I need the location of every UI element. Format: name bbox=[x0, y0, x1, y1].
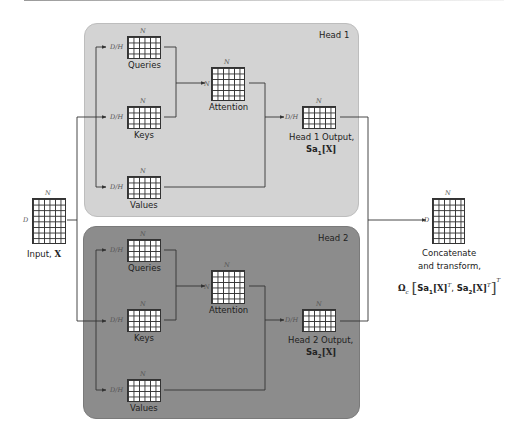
head-1-queries-cols-dim: N bbox=[140, 27, 146, 35]
head-2-values-label: Values bbox=[130, 403, 158, 413]
head-1-values-matrix bbox=[127, 176, 161, 199]
head-1-output-rows-dim: D/H bbox=[285, 113, 298, 121]
head-1-queries-label: Queries bbox=[128, 60, 161, 70]
head-1-keys-rows-dim: D/H bbox=[110, 113, 123, 121]
head-2-keys-label: Keys bbox=[134, 333, 154, 343]
head-2-keys-rows-dim: D/H bbox=[110, 316, 123, 324]
head-1-queries-rows-dim: D/H bbox=[110, 43, 123, 51]
concat-label-line1: Concatenate bbox=[422, 248, 476, 258]
head-1-values-label: Values bbox=[130, 200, 158, 210]
head-1-keys-matrix bbox=[127, 106, 161, 129]
head-1-attention-label: Attention bbox=[209, 102, 248, 112]
concat-output-matrix bbox=[432, 198, 465, 244]
input-rows-dim: D bbox=[23, 216, 28, 224]
head-2-attention-label: Attention bbox=[209, 305, 248, 315]
head-2-values-cols-dim: N bbox=[140, 370, 146, 378]
head-2-keys-matrix bbox=[127, 309, 161, 332]
head-1-output-label: Head 1 Output, bbox=[289, 132, 354, 142]
head-1-attention-cols-dim: N bbox=[224, 58, 230, 66]
head-1-output-cols-dim: N bbox=[316, 97, 322, 105]
head-2-output-cols-dim: N bbox=[316, 300, 322, 308]
head-1-keys-cols-dim: N bbox=[140, 97, 146, 105]
head-2-queries-matrix bbox=[127, 239, 161, 262]
head-1-queries-matrix bbox=[127, 36, 161, 59]
head-2-output-rows-dim: D/H bbox=[285, 316, 298, 324]
head-2-keys-cols-dim: N bbox=[140, 300, 146, 308]
concat-cols-dim: N bbox=[445, 189, 451, 197]
head-1-values-rows-dim: D/H bbox=[110, 183, 123, 191]
head-2-queries-label: Queries bbox=[128, 263, 161, 273]
concat-rows-dim: D bbox=[424, 216, 429, 224]
head-2-output-formula: Sa2[X] bbox=[306, 347, 336, 359]
head-2-attention-matrix bbox=[211, 270, 245, 304]
head-2-queries-rows-dim: D/H bbox=[110, 246, 123, 254]
head-2-queries-cols-dim: N bbox=[140, 230, 146, 238]
head-1-attention-matrix bbox=[211, 67, 245, 101]
concat-formula: Ωc [Sa1[X]T, Sa2[X]T]T bbox=[398, 277, 500, 297]
head-2-values-rows-dim: D/H bbox=[110, 386, 123, 394]
head-2-output-matrix bbox=[302, 309, 336, 332]
head-2-attention-rows-dim: N bbox=[204, 283, 210, 291]
concat-label-line2: and transform, bbox=[418, 261, 481, 271]
head-1-attention-rows-dim: N bbox=[204, 80, 210, 88]
head-2-attention-cols-dim: N bbox=[224, 261, 230, 269]
head-1-keys-label: Keys bbox=[134, 130, 154, 140]
head-1-values-cols-dim: N bbox=[140, 167, 146, 175]
head-1-output-formula: Sa1[X] bbox=[306, 144, 336, 156]
head-2-values-matrix bbox=[127, 379, 161, 402]
input-label: Input, X bbox=[27, 249, 61, 259]
input-matrix bbox=[32, 198, 66, 244]
head-1-output-matrix bbox=[302, 106, 336, 129]
head-2-output-label: Head 2 Output, bbox=[288, 335, 353, 345]
input-cols-dim: N bbox=[45, 189, 51, 197]
